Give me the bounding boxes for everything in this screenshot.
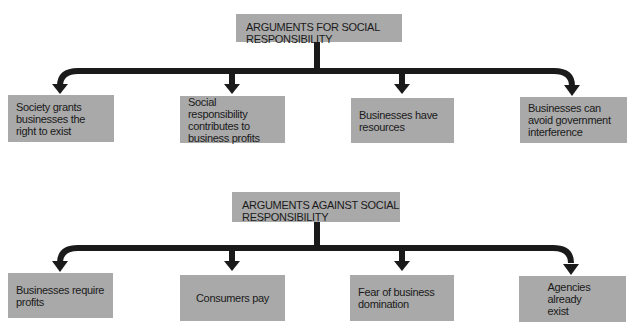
header-for: ARGUMENTS FOR SOCIAL RESPONSIBILITY [236, 14, 402, 42]
header-against: ARGUMENTS AGAINST SOCIAL RESPONSIBILITY [232, 192, 400, 222]
argument-for-box: Businesses can avoid government interfer… [520, 97, 627, 143]
argument-for-box: Social responsibility contributes to bus… [180, 96, 285, 143]
argument-label: Consumers pay [196, 292, 269, 304]
argument-against-box: Businesses require profits [8, 273, 113, 318]
argument-for-box: Businesses have resources [351, 98, 454, 143]
header-line: RESPONSIBILITY [246, 33, 402, 45]
argument-against-box: Consumers pay [180, 275, 285, 321]
argument-for-box: Society grants businesses the right to e… [8, 95, 114, 142]
argument-against-box: Agencies already exist [519, 276, 626, 322]
argument-label: Businesses require profits [16, 284, 105, 308]
header-line: RESPONSIBILITY [242, 211, 400, 223]
argument-label: Businesses can avoid government interfer… [528, 102, 619, 138]
argument-label: Fear of business domination [358, 286, 446, 310]
header-line: ARGUMENTS FOR SOCIAL [246, 21, 402, 33]
argument-label: Agencies already exist [548, 281, 598, 317]
header-line: ARGUMENTS AGAINST SOCIAL [242, 199, 400, 211]
argument-label: Society grants businesses the right to e… [16, 101, 106, 137]
argument-against-box: Fear of business domination [350, 275, 454, 321]
argument-label: Businesses have resources [359, 109, 446, 133]
arrow-icon [52, 84, 68, 94]
argument-label: Social responsibility contributes to bus… [188, 96, 277, 144]
